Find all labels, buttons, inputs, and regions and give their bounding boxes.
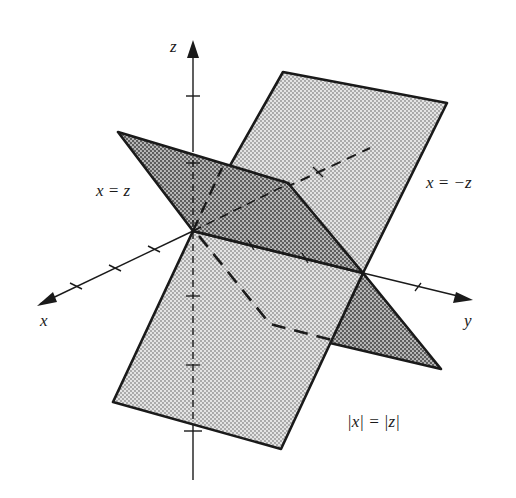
label-abs-x-eq-abs-z: |x| = |z| <box>347 412 400 431</box>
z-axis-label: z <box>169 37 177 56</box>
z-axis-arrowhead <box>187 40 199 58</box>
label-x-eq-z: x = z <box>95 181 131 200</box>
figure-canvas: z x y x = z x = −z |x| = |z| <box>0 0 516 498</box>
x-axis-arrowhead <box>37 292 57 306</box>
y-axis-arrowhead <box>453 292 473 303</box>
x-axis-label: x <box>39 311 48 330</box>
y-axis-label: y <box>462 311 472 330</box>
label-x-eq-neg-z: x = −z <box>425 173 472 192</box>
